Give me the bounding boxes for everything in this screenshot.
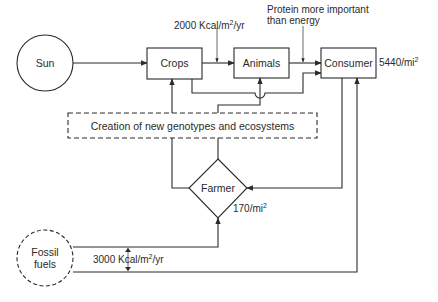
consumer-density-exp: 2: [415, 56, 419, 63]
protein-note-line2: than energy: [267, 15, 369, 26]
animals-node-label: Animals: [234, 57, 289, 69]
fossil-node-label: Fossil fuels: [20, 246, 70, 270]
crops-animals-energy-annotation: 2000 Kcal/m2/yr: [174, 20, 245, 31]
consumer-node-label: Consumer: [321, 57, 376, 69]
energy-unit: /yr: [234, 20, 245, 31]
farmer-density-annotation: 170/mi2: [233, 203, 267, 214]
farmer-density-value: 170/mi: [233, 203, 263, 214]
sun-node-label: Sun: [20, 57, 70, 69]
consumer-density-value: 5440/mi: [379, 57, 415, 68]
protein-note-line1: Protein more important: [267, 4, 369, 15]
farmer-density-exp: 2: [263, 202, 267, 209]
protein-note-annotation: Protein more important than energy: [267, 4, 369, 26]
energy-value: 2000 Kcal/m: [174, 20, 230, 31]
genotypes-node-label: Creation of new genotypes and ecosystems: [68, 120, 317, 132]
crops-node-label: Crops: [147, 57, 202, 69]
fossil-energy-unit: /yr: [153, 254, 164, 265]
fossil-label-line2: fuels: [20, 258, 70, 270]
consumer-density-annotation: 5440/mi2: [379, 57, 418, 68]
fossil-energy-value: 3000 Kcal/m: [93, 254, 149, 265]
fossil-energy-annotation: 3000 Kcal/m2/yr: [93, 254, 164, 265]
fossil-label-line1: Fossil: [20, 246, 70, 258]
farmer-node-label: Farmer: [193, 182, 243, 194]
